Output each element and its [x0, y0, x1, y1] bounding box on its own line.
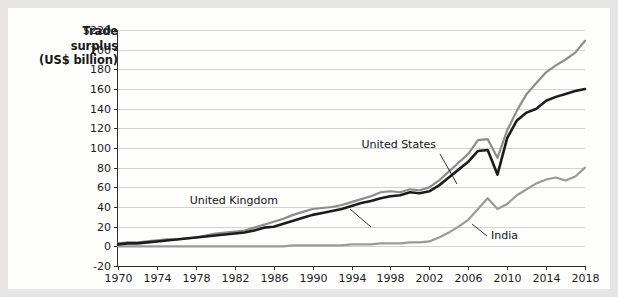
- x-tick-label: 2014: [533, 272, 561, 285]
- y-tick-label: 200: [90, 44, 111, 57]
- x-tick-label: 2002: [416, 272, 444, 285]
- y-tick-label: 100: [90, 142, 111, 155]
- series-paths-group: [118, 41, 585, 247]
- x-tick-group: 1970197419781982198619901994199820022006…: [105, 266, 600, 285]
- y-tick-label: 180: [90, 63, 111, 76]
- x-tick-label: 1982: [222, 272, 250, 285]
- annotation-leader-line: [472, 224, 487, 236]
- y-tick-label: 120: [90, 122, 111, 135]
- gridlines-group: [118, 31, 585, 247]
- y-tick-label: 20: [97, 221, 111, 234]
- trade-surplus-line-chart: Trade surplus (US$ billion) $22020018016…: [8, 8, 610, 289]
- x-tick-label: 2018: [572, 272, 600, 285]
- series-annotation-label: India: [491, 229, 518, 242]
- x-tick-label: 1994: [339, 272, 367, 285]
- x-tick-label: 1998: [377, 272, 405, 285]
- figure-panel: Trade surplus (US$ billion) $22020018016…: [8, 8, 610, 289]
- y-tick-label: 140: [90, 103, 111, 116]
- x-tick-label: 1974: [144, 272, 172, 285]
- x-tick-label: 2010: [494, 272, 522, 285]
- y-tick-group: $220200180160140120100806040200-20: [83, 24, 118, 273]
- y-tick-label: 80: [97, 162, 111, 175]
- series-annotation-label: United Kingdom: [190, 194, 278, 207]
- x-tick-label: 1970: [105, 272, 133, 285]
- y-tick-label: 0: [104, 240, 111, 253]
- x-tick-label: 1978: [183, 272, 211, 285]
- x-tick-label: 1990: [300, 272, 328, 285]
- figure-frame: Trade surplus (US$ billion) $22020018016…: [0, 0, 618, 297]
- series-annotation-label: United States: [362, 138, 437, 151]
- y-tick-label: 40: [97, 201, 111, 214]
- x-tick-label: 2006: [455, 272, 483, 285]
- annotation-leader-line: [350, 209, 371, 227]
- series-line-united-states: [118, 41, 585, 244]
- plot-svg: $220200180160140120100806040200-20 19701…: [8, 8, 610, 289]
- y-tick-label: $220: [83, 24, 111, 37]
- y-tick-label: 160: [90, 83, 111, 96]
- x-tick-label: 1986: [261, 272, 289, 285]
- y-tick-label: 60: [97, 181, 111, 194]
